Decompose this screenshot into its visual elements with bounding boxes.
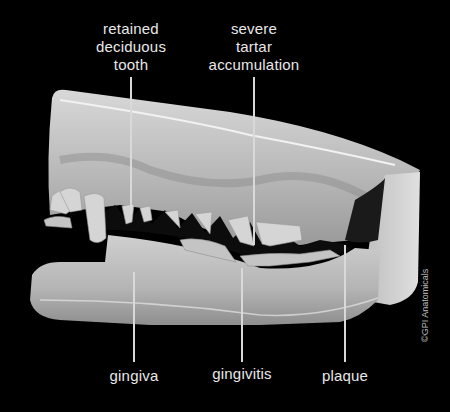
label-gingiva: gingiva: [104, 367, 164, 385]
label-line: tooth: [91, 56, 171, 74]
leader-line-retained-deciduous-tooth: [130, 77, 132, 215]
label-line: retained: [91, 20, 171, 38]
label-line: severe: [204, 20, 304, 38]
label-line: accumulation: [204, 56, 304, 74]
leader-line-gingivitis: [241, 268, 243, 362]
label-severe-tartar-accumulation: severe tartar accumulation: [204, 20, 304, 74]
leader-line-gingiva: [133, 272, 135, 362]
label-gingivitis: gingivitis: [207, 365, 277, 383]
label-plaque: plaque: [315, 367, 375, 385]
label-line: deciduous: [91, 38, 171, 56]
copyright-text: ©GPI Anatomicals: [420, 269, 430, 342]
figure-canvas: retained deciduous tooth severe tartar a…: [0, 0, 450, 412]
leader-line-plaque: [344, 245, 346, 362]
leader-line-severe-tartar: [253, 77, 255, 245]
label-retained-deciduous-tooth: retained deciduous tooth: [91, 20, 171, 74]
label-line: tartar: [204, 38, 304, 56]
